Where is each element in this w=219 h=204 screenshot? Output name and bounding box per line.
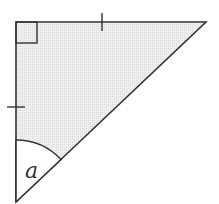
triangle-diagram: a [0, 0, 219, 204]
angle-label: a [25, 158, 38, 183]
